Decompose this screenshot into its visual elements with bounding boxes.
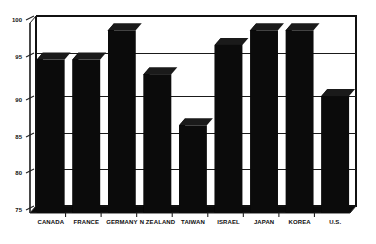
bar-n-zealand: [144, 67, 178, 213]
bar-germany: [108, 23, 142, 213]
bars-layer: [37, 23, 355, 213]
chart-canvas: 100 95 90 85 80 75 CANADAFRANCEGERMANYN …: [0, 0, 376, 244]
bar-top-face: [72, 53, 106, 60]
bar-japan: [250, 23, 284, 213]
bar-top-face: [321, 89, 355, 96]
bar-front-face: [108, 30, 136, 213]
bar-front-face: [215, 45, 243, 213]
ytick-label-95: 95: [15, 54, 22, 60]
bar-israel: [215, 38, 249, 213]
bar-top-face: [37, 53, 71, 60]
bar-top-face: [215, 38, 249, 45]
category-label-germany: GERMANY: [106, 219, 137, 225]
category-label-japan: JAPAN: [254, 219, 274, 225]
bar-front-face: [321, 96, 349, 213]
category-label-taiwan: TAIWAN: [181, 219, 205, 225]
ytick-label-90: 90: [15, 97, 22, 103]
bar-front-face: [250, 30, 278, 213]
bar-top-face: [250, 23, 284, 30]
bar-front-face: [72, 60, 100, 213]
bar-top-face: [144, 67, 178, 74]
bar-korea: [286, 23, 320, 213]
bar-top-face: [286, 23, 320, 30]
bar-top-face: [179, 118, 213, 125]
ytick-label-100: 100: [12, 17, 23, 23]
ytick-label-75: 75: [15, 207, 22, 213]
category-label-u-s-: U.S.: [329, 219, 341, 225]
bar-top-face: [108, 23, 142, 30]
category-label-france: FRANCE: [74, 219, 100, 225]
category-label-israel: ISRAEL: [217, 219, 240, 225]
category-labels-layer: CANADAFRANCEGERMANYN ZEALANDTAIWANISRAEL…: [37, 213, 341, 225]
bar-front-face: [37, 60, 65, 213]
category-label-korea: KOREA: [289, 219, 312, 225]
bar-front-face: [179, 125, 207, 213]
category-label-n-zealand: N ZEALAND: [140, 219, 176, 225]
ytick-label-85: 85: [15, 134, 22, 140]
ytick-label-80: 80: [15, 170, 22, 176]
bar-front-face: [144, 74, 172, 213]
bar-chart: 100 95 90 85 80 75 CANADAFRANCEGERMANYN …: [0, 0, 376, 244]
category-label-canada: CANADA: [37, 219, 64, 225]
bar-front-face: [286, 30, 314, 213]
bar-u-s-: [321, 89, 355, 213]
